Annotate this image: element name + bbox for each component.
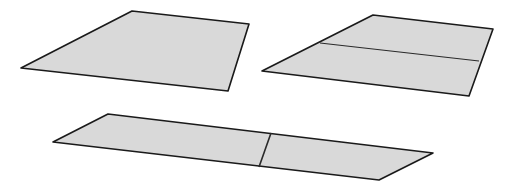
sheet-whole-face <box>21 11 249 91</box>
sheet-halved-horizontal-face <box>262 15 493 96</box>
diagram-canvas <box>0 0 509 191</box>
sheet-halved-horizontal <box>262 15 493 96</box>
sheet-whole <box>21 11 249 91</box>
sheet-halved-vertical <box>53 114 433 180</box>
sheet-halved-vertical-face <box>53 114 433 180</box>
